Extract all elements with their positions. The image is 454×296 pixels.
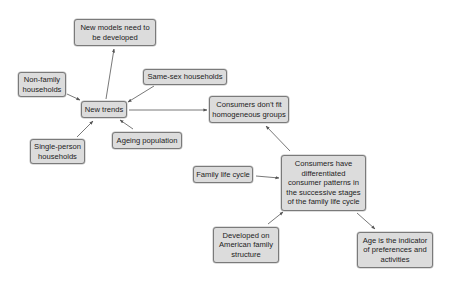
node-consumers-dont-fit: Consumers don’t fithomogeneous groups [209,96,289,123]
node-label: structure [219,250,273,259]
arrow-single-person-to-new-trends [77,121,93,137]
node-label: Single-person [34,142,81,151]
node-label: differentiated [286,169,360,178]
node-age-indicator: Age is the indicator of preferences and … [357,232,433,268]
node-differentiated: Consumers have differentiated consumer p… [281,155,366,211]
arrow-ageing-to-new-trends [120,120,133,129]
node-single-person: Single-personhouseholds [30,139,85,164]
node-label: be developed [80,33,149,42]
node-label: of the family life cycle [286,197,360,206]
node-label: Consumers don’t fit [212,100,285,109]
arrow-differentiated-to-consumers-dont-fit [266,126,290,151]
node-label: consumer patterns in [286,178,360,187]
arrow-non-family-to-new-trends [67,94,80,100]
node-label: Family life cycle [196,170,250,179]
arrow-same-sex-to-new-trends [128,86,154,102]
node-label: New models need to [80,23,149,32]
arrow-family-life-cycle-to-differentiated [256,176,279,178]
node-family-life-cycle: Family life cycle [193,166,253,183]
node-label: American family [219,240,273,249]
node-label: Non-family [23,75,62,84]
node-non-family: Non-familyhouseholds [18,72,66,97]
node-label: Age is the indicator [363,236,428,245]
arrow-new-trends-to-new-models [106,49,114,99]
node-same-sex: Same-sex households [143,69,227,85]
node-label: the successive stages [286,188,360,197]
node-label: Ageing population [117,136,178,145]
node-label: New trends [85,105,123,114]
node-new-trends: New trends [81,101,127,118]
node-new-models: New models need tobe developed [74,19,156,46]
node-label: Developed on [219,231,273,240]
node-ageing: Ageing population [112,132,182,149]
node-label: of preferences and [363,245,428,254]
node-label: Same-sex households [147,72,222,81]
node-american: Developed on American family structure [213,227,279,263]
node-label: Consumers have [286,159,360,168]
node-label: households [34,152,81,161]
node-label: households [23,85,62,94]
node-label: activities [363,255,428,264]
arrow-american-to-differentiated [268,212,283,224]
arrow-differentiated-to-age-indicator [357,213,375,229]
node-label: homogeneous groups [212,110,285,119]
